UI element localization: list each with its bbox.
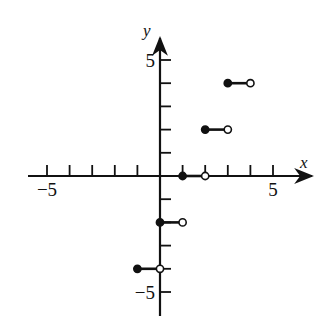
open-dot [224,126,231,133]
step-segment [224,80,254,87]
x-axis-label: x [299,153,308,172]
closed-dot [224,80,231,87]
y-tick-label: −5 [135,282,155,303]
step-segment [202,126,232,133]
open-dot [247,80,254,87]
y-tick-label: 5 [146,50,156,71]
closed-dot [134,265,141,272]
closed-dot [179,172,186,179]
axes [28,38,312,316]
open-dot [156,265,163,272]
closed-dot [202,126,209,133]
open-dot [202,172,209,179]
y-axis-label: y [141,21,151,40]
step-segment [134,265,164,272]
step-function-plot: −555−5 x y [0,0,327,326]
step-segment [179,172,209,179]
x-tick-label: −5 [37,179,57,200]
open-dot [179,219,186,226]
x-tick-label: 5 [268,179,278,200]
closed-dot [156,219,163,226]
step-segment [156,219,186,226]
